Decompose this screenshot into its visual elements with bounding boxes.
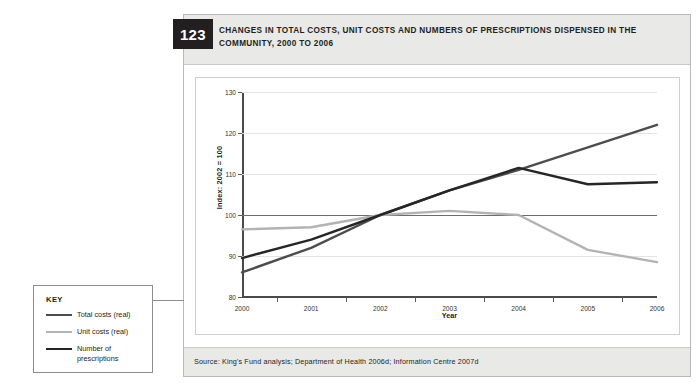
- chart-region: Index: 2002 = 100 8090100110120130 20002…: [184, 65, 690, 348]
- key-item: Number of prescriptions: [46, 344, 118, 363]
- x-tick-mark: [277, 297, 278, 302]
- x-tick-mark: [622, 297, 623, 302]
- figure-header: 123 CHANGES IN TOTAL COSTS, UNIT COSTS A…: [184, 15, 690, 65]
- y-tick-label: 80: [229, 294, 236, 301]
- x-tick-mark: [553, 297, 554, 302]
- x-tick-mark: [415, 297, 416, 302]
- key-connector-line: [152, 300, 184, 301]
- chart-frame: Index: 2002 = 100 8090100110120130 20002…: [195, 77, 680, 335]
- figure-number-badge: 123: [173, 19, 213, 49]
- y-axis-label: Index: 2002 = 100: [215, 118, 224, 238]
- key-title: KEY: [46, 295, 63, 304]
- key-label: Number of prescriptions: [77, 344, 118, 363]
- figure-title: CHANGES IN TOTAL COSTS, UNIT COSTS AND N…: [219, 24, 680, 50]
- plot-area: 8090100110120130 20002001200220032004200…: [242, 92, 657, 297]
- y-tick-mark: [238, 297, 242, 298]
- source-band: Source: King's Fund analysis; Department…: [184, 347, 690, 376]
- series-line: [242, 168, 657, 258]
- series-layer: [242, 92, 657, 297]
- key-swatch: [46, 314, 72, 317]
- key-item: Unit costs (real): [46, 327, 128, 337]
- key-swatch: [46, 348, 72, 351]
- source-text: Source: King's Fund analysis; Department…: [194, 357, 479, 366]
- key-item: Total costs (real): [46, 310, 131, 320]
- key-label: Total costs (real): [77, 310, 131, 320]
- key-label: Unit costs (real): [77, 327, 128, 337]
- x-tick-mark: [346, 297, 347, 302]
- x-axis-label: Year: [242, 311, 657, 320]
- figure-panel: 123 CHANGES IN TOTAL COSTS, UNIT COSTS A…: [183, 14, 691, 377]
- y-tick-label: 120: [225, 130, 236, 137]
- y-tick-label: 110: [225, 171, 236, 178]
- y-tick-label: 90: [229, 253, 236, 260]
- y-tick-label: 130: [225, 89, 236, 96]
- series-line: [242, 211, 657, 262]
- y-tick-label: 100: [225, 212, 236, 219]
- x-tick-mark: [484, 297, 485, 302]
- key-swatch: [46, 331, 72, 334]
- key-box: KEY Total costs (real)Unit costs (real)N…: [33, 285, 153, 373]
